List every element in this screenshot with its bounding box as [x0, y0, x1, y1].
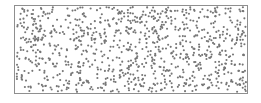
plot-frame — [14, 5, 248, 94]
point-scatter-canvas — [15, 6, 247, 93]
figure-root — [0, 0, 261, 103]
